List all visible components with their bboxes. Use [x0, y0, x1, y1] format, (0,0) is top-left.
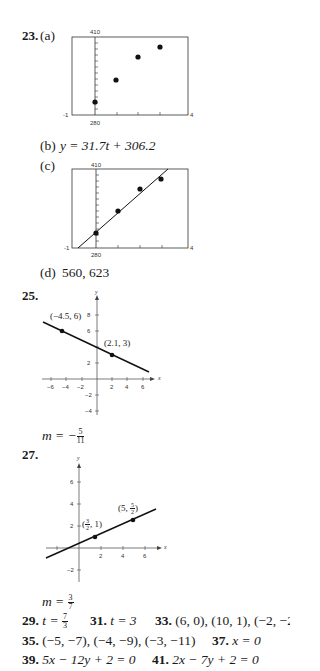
- answer-33: 33. (6, 0), (10, 1), (−2, −2): [155, 613, 290, 629]
- chart-27-xtick-4: 4: [121, 553, 124, 559]
- problem-27-slope: m = 37: [42, 594, 74, 611]
- chart-27-ytick-6: 6: [70, 479, 73, 485]
- chart-27-ylabel: y: [77, 455, 80, 461]
- chart-27-point2-label: (5, 52): [118, 502, 138, 515]
- chart-27-xlabel: x: [164, 544, 167, 550]
- chart-27-ytick-4: 4: [70, 501, 73, 507]
- chart-27-point1-label: (32, 1): [82, 518, 102, 531]
- answer-37: 37. x = 0: [212, 633, 261, 649]
- answer-41: 41. 2x − 7y + 2 = 0: [152, 652, 259, 668]
- answer-31: 31. t = 3: [90, 613, 137, 629]
- chart-27-xtick-6: 6: [143, 553, 146, 559]
- answer-35: 35. (−5, −7), (−4, −9), (−3, −11): [22, 633, 195, 649]
- chart-27-ytick-neg2: −2: [67, 567, 74, 573]
- chart-27-xtick-2: 2: [99, 553, 102, 559]
- answer-29: 29. t = 73: [22, 613, 68, 630]
- answer-39: 39. 5x − 12y + 2 = 0: [22, 652, 136, 668]
- slope-prefix: m =: [42, 594, 68, 609]
- chart-27-ytick-2: 2: [70, 523, 73, 529]
- slope-fraction: 37: [68, 594, 74, 611]
